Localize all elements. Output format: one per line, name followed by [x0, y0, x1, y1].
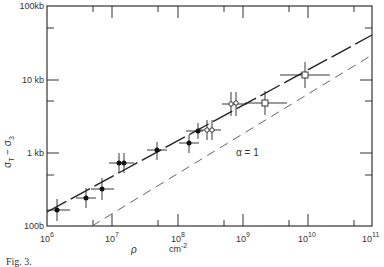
- y-tick-label: 100kb: [19, 1, 44, 11]
- alpha-annotation: α = 1: [236, 147, 259, 158]
- y-tick-label: 10 kb: [22, 75, 44, 85]
- figure-caption: Fig. 3.: [6, 256, 32, 267]
- svg-text:1011: 1011: [362, 231, 379, 244]
- plot-frame: [47, 6, 372, 226]
- y-tick-label: 1 kb: [27, 148, 44, 158]
- x-tick-labels: 106 107 108 109 1010 1011: [40, 231, 379, 244]
- y-axis-label: σT − σ3: [2, 136, 15, 168]
- x-axis-label-rho: ρ: [130, 244, 137, 255]
- alpha-one-line: [92, 55, 372, 226]
- svg-text:1010: 1010: [298, 231, 316, 244]
- x-major-ticks: [112, 6, 308, 226]
- svg-text:106: 106: [40, 231, 54, 244]
- open-squares: [262, 72, 308, 106]
- svg-text:107: 107: [105, 231, 119, 244]
- y-ticks: [47, 28, 372, 175]
- fit-line: [47, 35, 372, 212]
- x-axis-label-unit: cm-2: [169, 242, 187, 254]
- svg-text:109: 109: [236, 231, 250, 244]
- y-tick-label: 100b: [24, 221, 44, 231]
